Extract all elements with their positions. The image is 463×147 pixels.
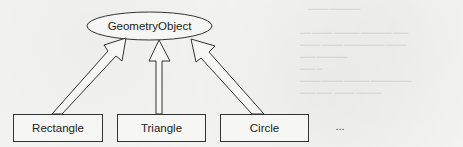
child-label: Circle bbox=[250, 122, 279, 134]
child-label: Triangle bbox=[141, 122, 182, 134]
parent-label: GeometryObject bbox=[108, 20, 193, 32]
parent-node-geometryobject[interactable]: GeometryObject bbox=[87, 12, 212, 40]
inheritance-arrow-circle bbox=[191, 39, 264, 114]
inheritance-diagram: GeometryObject Rectangle Triangle Circle… bbox=[0, 0, 463, 147]
inheritance-arrow-rectangle bbox=[52, 38, 126, 114]
child-node-triangle[interactable]: Triangle bbox=[118, 115, 206, 142]
child-node-circle[interactable]: Circle bbox=[221, 115, 309, 142]
more-subclasses-ellipsis: ... bbox=[335, 120, 344, 132]
child-node-rectangle[interactable]: Rectangle bbox=[14, 115, 103, 142]
inheritance-arrow-triangle bbox=[149, 40, 170, 114]
child-label: Rectangle bbox=[32, 122, 84, 134]
